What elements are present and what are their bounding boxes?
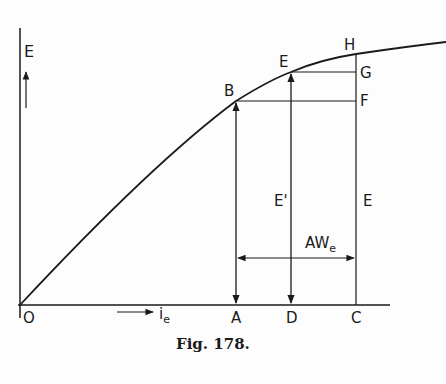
figure-caption: Fig. 178. [176,335,250,353]
x-axis-label: ie [159,307,170,325]
e-right-label: E [363,194,372,209]
aw-e-label-sub: e [329,242,336,255]
figure-178: E O ie B E H G F A D C E' E AWe Fig. 178… [0,0,446,384]
point-label-g: G [360,66,372,81]
origin-label: O [23,311,35,326]
e-prime-label: E' [274,194,288,209]
point-label-a: A [231,311,241,326]
point-label-h: H [344,38,355,53]
aw-e-label: AWe [305,236,336,254]
point-label-d: D [286,311,298,326]
point-label-b: B [224,84,234,99]
aw-e-label-main: AW [305,234,329,252]
x-axis-label-sub: e [163,313,170,326]
point-label-c: C [351,311,361,326]
point-label-e: E [279,55,288,70]
diagram-drawing [0,0,446,384]
y-axis-label: E [24,44,34,60]
point-label-f: F [360,94,369,109]
